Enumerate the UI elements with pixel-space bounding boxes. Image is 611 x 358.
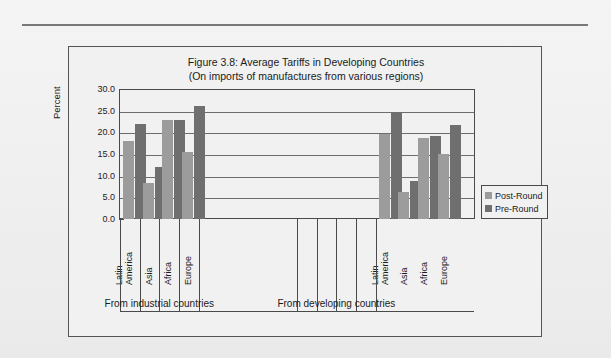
bar-post-round [182, 152, 193, 219]
bar-group [159, 90, 179, 219]
bar-group [140, 90, 160, 219]
y-axis-title: Percent [51, 86, 62, 119]
legend-item-pre-round: Pre-Round [485, 202, 543, 215]
bar-post-round [379, 134, 390, 219]
bar-pre-round [194, 106, 205, 219]
x-axis-label: Europe [439, 256, 449, 285]
x-axis-label: Asia [144, 267, 154, 285]
group-caption: From industrial countries [89, 298, 229, 309]
document-page: Figure 3.8: Average Tariffs in Developin… [0, 0, 611, 358]
figure-box: Figure 3.8: Average Tariffs in Developin… [68, 46, 542, 337]
chart-title-line-1: Figure 3.8: Average Tariffs in Developin… [69, 55, 543, 69]
bar-post-round [398, 192, 409, 219]
x-axis-label: LatinAmerica [370, 252, 390, 285]
y-tick-label: 10.0 [81, 171, 115, 181]
legend-swatch-icon [485, 192, 492, 199]
y-tick-label: 25.0 [81, 106, 115, 116]
bar-group [376, 90, 396, 219]
bar-group [415, 90, 435, 219]
x-axis-label: Europe [183, 256, 193, 285]
y-axis-ticks: 30.0 25.0 20.0 15.0 10.0 5.0 0.0 [75, 89, 115, 219]
legend-label: Pre-Round [495, 204, 539, 214]
legend-item-post-round: Post-Round [485, 189, 543, 202]
chart-legend: Post-Round Pre-Round [481, 185, 548, 219]
bar-post-round [418, 138, 429, 219]
legend-swatch-icon [485, 205, 492, 212]
y-tick-label: 0.0 [81, 214, 115, 224]
category-ticks: LatinAmericaAsiaAfricaEuropeLatinAmerica… [120, 219, 474, 311]
legend-label: Post-Round [495, 191, 543, 201]
group-caption: From developing countries [266, 298, 406, 309]
bar-post-round [143, 183, 154, 219]
x-axis-label: Africa [163, 262, 173, 285]
y-tick-label: 5.0 [81, 192, 115, 202]
page-top-rule [22, 24, 588, 26]
y-tick-label: 15.0 [81, 149, 115, 159]
y-tick-label: 30.0 [81, 84, 115, 94]
chart-title-line-2: (On imports of manufactures from various… [69, 69, 543, 83]
bar-group [120, 90, 140, 219]
bar-group [435, 90, 455, 219]
bar-post-round [162, 120, 173, 219]
bar-group [395, 90, 415, 219]
x-axis-label: LatinAmerica [114, 252, 134, 285]
chart-title-block: Figure 3.8: Average Tariffs in Developin… [69, 55, 543, 83]
bar-post-round [123, 141, 134, 219]
bar-pre-round [450, 125, 461, 219]
bar-group [179, 90, 199, 219]
x-axis-label: Africa [419, 262, 429, 285]
axis-bottom-rule [120, 311, 474, 312]
bars-layer [120, 90, 474, 219]
x-axis-label: Asia [399, 267, 409, 285]
y-tick-label: 20.0 [81, 127, 115, 137]
bar-post-round [438, 154, 449, 219]
